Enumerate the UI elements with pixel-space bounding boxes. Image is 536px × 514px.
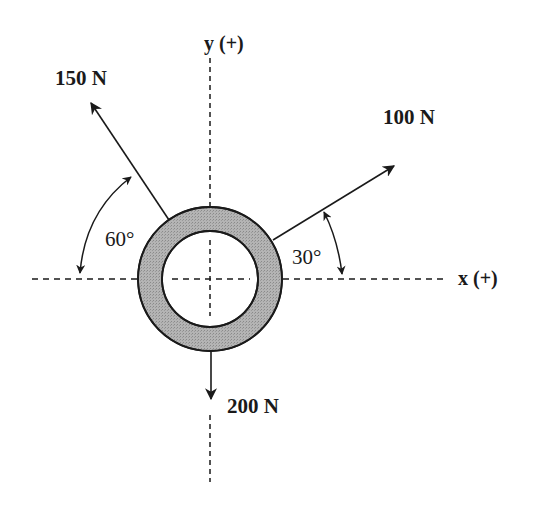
diagram-svg: y (+) x (+) 150 N 100 N 200 N 60° 30° bbox=[0, 0, 536, 514]
y-axis-label: y (+) bbox=[204, 32, 244, 55]
force-label-100n: 100 N bbox=[383, 105, 435, 129]
force-arrow-150n bbox=[91, 103, 169, 220]
force-arrow-100n bbox=[273, 166, 394, 240]
force-label-200n: 200 N bbox=[227, 394, 279, 418]
angle-arc-60 bbox=[80, 177, 131, 273]
angle-arc-30 bbox=[324, 212, 342, 274]
force-label-150n: 150 N bbox=[55, 66, 107, 90]
angle-label-30: 30° bbox=[292, 245, 321, 269]
force-diagram: y (+) x (+) 150 N 100 N 200 N 60° 30° bbox=[0, 0, 536, 514]
x-axis-label: x (+) bbox=[458, 267, 498, 290]
angle-label-60: 60° bbox=[105, 227, 134, 251]
